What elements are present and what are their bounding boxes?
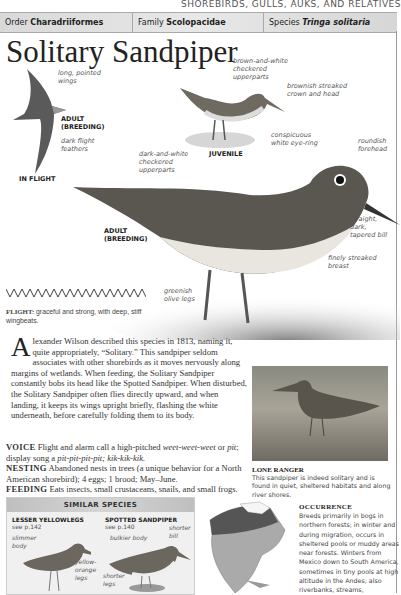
label-breast: finely streakedbreast xyxy=(328,254,377,270)
flight-pattern-zigzag-icon xyxy=(6,288,146,298)
taxonomy-bar: Order Charadriiformes Family Scolopacida… xyxy=(0,12,397,33)
description-text: lexander Wilson described this species i… xyxy=(11,336,247,420)
dropcap: A xyxy=(11,337,31,358)
species-description: Alexander Wilson described this species … xyxy=(11,336,247,421)
occurrence-section: OCCURRENCE Breeds primarily in bogs in n… xyxy=(299,503,399,595)
photo-caption-text: This sandpiper is indeed solitary and is… xyxy=(252,474,392,499)
similar-species-heading: SIMILAR SPECIES xyxy=(7,498,194,512)
similar-lesser-yellowlegs-ref[interactable]: see p.142 xyxy=(12,523,42,531)
label-bill: straight,dark,tapered bill xyxy=(350,215,387,239)
order-value: Charadriiformes xyxy=(30,18,103,27)
spotted-sandpiper-illustration xyxy=(107,542,192,592)
label-juvenile-head: brownish streakedcrown and head xyxy=(287,82,347,98)
family-value: Scolopacidae xyxy=(166,18,225,27)
label-shorter-bill: shorter bill xyxy=(169,524,191,540)
photo-bird-icon xyxy=(252,366,388,461)
lesser-yellowlegs-illustration xyxy=(21,533,91,593)
label-flight-adult: ADULT(BREEDING) xyxy=(61,115,104,131)
order-label: Order xyxy=(5,18,28,27)
species-cell: Species Tringa solitaria xyxy=(264,13,397,32)
label-legs: greenisholive legs xyxy=(164,287,195,303)
occurrence-text: Breeds primarily in bogs in northern for… xyxy=(299,511,399,595)
photo-caption: LONE RANGER This sandpiper is indeed sol… xyxy=(252,466,392,499)
label-bulkier-body: bulkier body xyxy=(110,534,147,542)
feeding-fact: FEEDING Eats insects, small crustaceans,… xyxy=(6,484,248,495)
range-map xyxy=(200,500,298,593)
caption-adult-breeding: ADULT(BREEDING) xyxy=(104,227,147,243)
photo-caption-title: LONE RANGER xyxy=(252,466,392,474)
label-adult-upperparts: dark-and-whitecheckeredupperparts xyxy=(139,150,188,174)
similar-spotted-sandpiper-ref[interactable]: see p.140 xyxy=(105,523,135,531)
occurrence-title: OCCURRENCE xyxy=(299,503,399,511)
label-eye-ring: conspicuouswhite eye-ring xyxy=(271,131,318,147)
similar-species-box: SIMILAR SPECIES LESSER YELLOWLEGS see p.… xyxy=(6,497,195,595)
page-title: Solitary Sandpiper xyxy=(6,34,238,70)
order-cell: Order Charadriiformes xyxy=(0,13,133,32)
label-forehead: roundishforehead xyxy=(358,137,387,153)
family-label: Family xyxy=(138,18,164,27)
species-label: Species xyxy=(269,18,300,27)
flight-label: FLIGHT: xyxy=(6,308,34,315)
label-flight-feathers: dark flightfeathers xyxy=(61,137,94,153)
species-value: Tringa solitaria xyxy=(302,18,370,27)
caption-in-flight: IN FLIGHT xyxy=(19,175,55,183)
label-wings: long, pointedwings xyxy=(58,69,101,85)
flight-description: FLIGHT: graceful and strong, with deep, … xyxy=(6,307,156,325)
lone-ranger-photo xyxy=(252,366,388,461)
label-juvenile-upperparts: brown-and-whitecheckeredupperparts xyxy=(233,57,288,81)
species-facts: VOICE Flight and alarm call a high-pitch… xyxy=(6,442,248,495)
family-cell: Family Scolopacidae xyxy=(133,13,264,32)
voice-fact: VOICE Flight and alarm call a high-pitch… xyxy=(6,442,248,463)
nesting-fact: NESTING Abandoned nests in trees (a uniq… xyxy=(6,463,248,484)
